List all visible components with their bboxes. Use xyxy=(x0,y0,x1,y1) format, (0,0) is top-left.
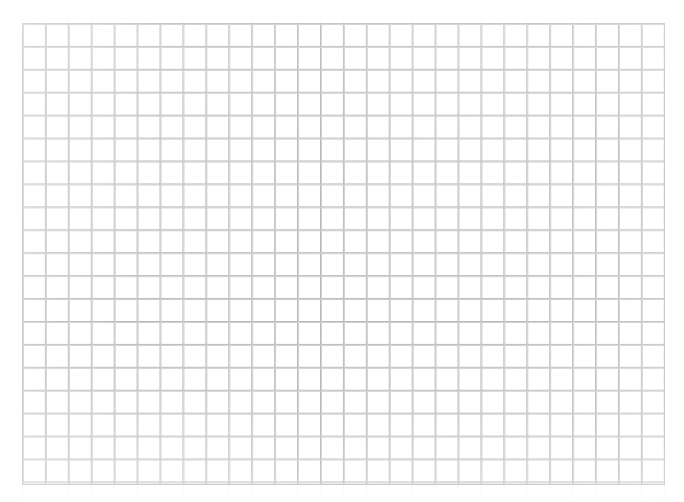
quadrille-grid xyxy=(22,23,665,485)
grid-paper-page xyxy=(0,0,684,502)
grid-edge-bleed-top xyxy=(22,11,665,23)
grid-edge-bleed-bottom xyxy=(22,485,665,498)
